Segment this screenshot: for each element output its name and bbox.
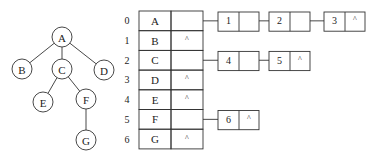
tree-node-E: E xyxy=(33,92,53,112)
table-row-0: 0A xyxy=(125,11,204,31)
list-node-value: 6 xyxy=(226,114,231,125)
null-pointer: ^ xyxy=(185,35,189,44)
null-pointer: ^ xyxy=(185,134,189,143)
list-node-box xyxy=(269,12,310,31)
tree-edge-C-F xyxy=(68,77,80,91)
list-node-box xyxy=(218,12,259,31)
tree-graph: ABCDEFG xyxy=(12,27,114,150)
null-pointer: ^ xyxy=(185,94,189,103)
list-node-6: 6^ xyxy=(218,111,259,130)
list-node-value: 5 xyxy=(277,55,282,66)
link-cell xyxy=(171,11,203,31)
data-cell-label: G xyxy=(151,133,159,145)
list-node-box xyxy=(324,12,365,31)
tree-node-A: A xyxy=(52,27,72,47)
list-node-value: 3 xyxy=(332,15,337,26)
row-index: 3 xyxy=(125,74,130,85)
list-node-1: 1 xyxy=(218,12,259,31)
list-node-3: 3^ xyxy=(324,12,365,31)
table-row-5: 5F xyxy=(125,110,204,130)
row-index: 2 xyxy=(125,55,130,66)
tree-edge-C-E xyxy=(48,78,57,94)
list-node-value: 4 xyxy=(226,55,231,66)
list-node-box xyxy=(269,51,310,70)
list-node-5: 5^ xyxy=(269,51,310,70)
list-node-value: 2 xyxy=(277,15,282,26)
tree-node-label: C xyxy=(58,64,65,76)
table-row-6: 6G^ xyxy=(125,129,204,149)
data-cell-label: B xyxy=(151,35,158,47)
child-linked-lists: 123^45^6^ xyxy=(203,12,365,130)
table-row-4: 4E^ xyxy=(125,90,204,110)
null-pointer: ^ xyxy=(247,114,251,123)
null-pointer: ^ xyxy=(298,55,302,64)
list-node-value: 1 xyxy=(226,15,231,26)
list-node-box xyxy=(218,111,259,130)
child-list-C: 45^ xyxy=(203,51,310,70)
tree-node-B: B xyxy=(12,59,32,79)
tree-node-F: F xyxy=(76,89,96,109)
list-node-2: 2 xyxy=(269,12,310,31)
tree-node-label: G xyxy=(82,135,90,147)
data-cell-label: E xyxy=(152,94,159,106)
row-index: 4 xyxy=(125,94,130,105)
list-node-box xyxy=(218,51,259,70)
table-row-3: 3D^ xyxy=(125,70,204,90)
null-pointer: ^ xyxy=(353,15,357,24)
tree-node-label: A xyxy=(58,32,66,44)
tree-node-label: F xyxy=(83,94,89,106)
tree-node-G: G xyxy=(76,130,96,150)
table-row-1: 1B^ xyxy=(125,31,204,51)
data-cell-label: C xyxy=(151,54,158,66)
child-list-A: 123^ xyxy=(203,12,365,31)
child-list-table: 0A1B^2C3D^4E^5F6G^ xyxy=(125,11,204,149)
link-cell xyxy=(171,110,203,130)
row-index: 1 xyxy=(125,35,130,46)
data-cell-label: F xyxy=(152,113,158,125)
list-node-4: 4 xyxy=(218,51,259,70)
tree-node-label: D xyxy=(100,65,108,77)
tree-edge-A-D xyxy=(70,43,96,64)
tree-node-D: D xyxy=(94,60,114,80)
table-row-2: 2C xyxy=(125,50,204,70)
tree-node-C: C xyxy=(52,59,72,79)
row-index: 0 xyxy=(125,15,130,26)
link-cell xyxy=(171,50,203,70)
null-pointer: ^ xyxy=(185,74,189,83)
child-list-F: 6^ xyxy=(203,111,259,130)
tree-node-label: B xyxy=(18,64,25,76)
data-cell-label: D xyxy=(151,74,159,86)
tree-edge-A-B xyxy=(30,43,54,63)
row-index: 5 xyxy=(125,114,130,125)
data-cell-label: A xyxy=(151,15,159,27)
row-index: 6 xyxy=(125,134,130,145)
tree-child-list-diagram: ABCDEFG 0A1B^2C3D^4E^5F6G^ 123^45^6^ xyxy=(0,0,375,159)
tree-node-label: E xyxy=(40,97,47,109)
